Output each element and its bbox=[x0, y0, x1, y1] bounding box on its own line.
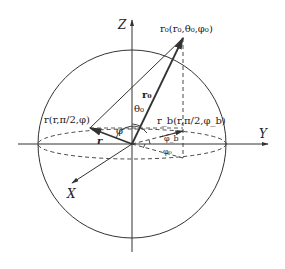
phi-label: φ bbox=[116, 125, 123, 136]
phi-b-arc bbox=[149, 140, 150, 144]
phi0-label: φ₀ bbox=[163, 147, 172, 156]
r0-vector-label: r₀ bbox=[142, 89, 152, 100]
x-axis-label: X bbox=[66, 187, 76, 201]
spherical-coordinates-diagram: Z Y X r₀(r₀,θ₀,φ₀) r(r,π/2,φ) r_b(r,π/2,… bbox=[0, 0, 285, 269]
z-axis-label: Z bbox=[117, 18, 127, 32]
r-point-label: r(r,π/2,φ) bbox=[44, 114, 90, 125]
y-axis-label: Y bbox=[259, 127, 268, 141]
phi-b-label: φ_b bbox=[164, 134, 179, 143]
phi0-arc bbox=[143, 144, 145, 148]
rb-point-label: r_b(r,π/2,φ_b) bbox=[157, 115, 226, 127]
theta0-label: θ₀ bbox=[134, 103, 144, 114]
r-vector-label: r bbox=[97, 135, 103, 146]
r0-point-label: r₀(r₀,θ₀,φ₀) bbox=[160, 23, 213, 34]
phi0-dashed-radius bbox=[132, 144, 183, 158]
x-axis bbox=[72, 144, 132, 183]
